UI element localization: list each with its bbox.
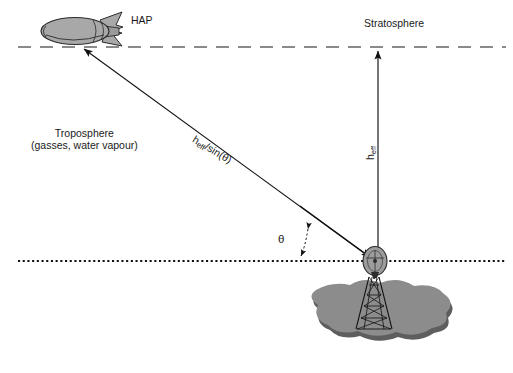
dish-antenna-icon	[363, 247, 387, 279]
elevation-angle-label: θ	[278, 233, 284, 247]
troposphere-title: Troposphere	[55, 127, 114, 139]
troposphere-detail: (gasses, water vapour)	[31, 139, 138, 151]
hap-airship-icon	[41, 12, 123, 46]
hap-label: HAP	[131, 14, 153, 26]
diagram-canvas: HAP Stratosphere Troposphere (gasses, wa…	[0, 0, 513, 373]
effective-height-subscript: eff	[369, 146, 378, 154]
diagram-graphics	[0, 0, 513, 373]
elevation-angle-arc	[301, 229, 308, 256]
slant-path-arrow-lower	[300, 206, 370, 257]
stratosphere-label: Stratosphere	[364, 17, 424, 29]
troposphere-label: Troposphere (gasses, water vapour)	[31, 127, 138, 152]
effective-height-label: heff	[364, 146, 379, 160]
effective-height-symbol: h	[364, 154, 376, 160]
